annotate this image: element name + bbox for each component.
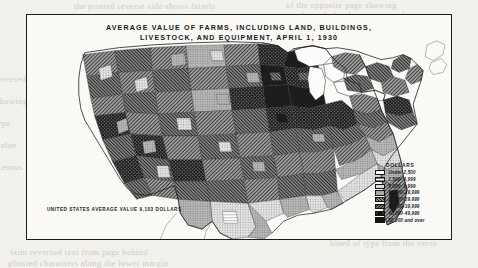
legend-row: Under 2,500 [375, 170, 449, 176]
legend-label: 30,000-39,999 [388, 204, 419, 209]
legend-label: 40,000-49,999 [388, 211, 419, 216]
showthrough-text-top-left: the printed reverse side shows faintly [74, 1, 216, 11]
legend-row: 50,000 and over [375, 217, 449, 223]
legend-row: 2,500- 4,999 [375, 176, 449, 182]
showthrough-text-left-2: showing [0, 96, 28, 106]
showthrough-text-left-1: reversed [0, 74, 26, 85]
showthrough-text-left-3: type [0, 118, 10, 128]
showthrough-text-top-right: of the opposite page showing [286, 0, 397, 10]
legend-rows: Under 2,5002,500- 4,9995,000- 9,99910,00… [375, 170, 449, 224]
map-plate: AVERAGE VALUE OF FARMS, INCLUDING LAND, … [26, 14, 452, 240]
legend-row: 40,000-49,999 [375, 210, 449, 216]
legend-swatch [375, 197, 385, 202]
legend-label: 10,000-19,999 [388, 190, 419, 195]
legend-swatch [375, 190, 385, 195]
legend-title: DOLLARS [386, 163, 449, 168]
legend-swatch [375, 184, 385, 189]
legend-swatch [375, 177, 385, 182]
legend-label: 5,000- 9,999 [388, 184, 415, 189]
legend-row: 10,000-19,999 [375, 190, 449, 196]
legend-swatch [375, 204, 385, 209]
united-states-average-note: UNITED STATES AVERAGE VALUE 9,103 DOLLAR… [47, 207, 182, 212]
legend-swatch [375, 170, 385, 175]
showthrough-text-bottom-left: faint reversed text from page behind [10, 247, 148, 257]
legend-label: 20,000-29,999 [388, 197, 419, 202]
legend-row: 20,000-29,999 [375, 197, 449, 203]
legend-row: 5,000- 9,999 [375, 183, 449, 189]
legend-label: 2,500- 4,999 [388, 177, 415, 182]
showthrough-text-left-5: census [0, 162, 23, 172]
legend-label: 50,000 and over [388, 218, 424, 223]
legend-swatch [375, 211, 385, 216]
legend-swatch [375, 217, 385, 222]
showthrough-text-bottom: ghosted characters along the lower margi… [8, 258, 168, 268]
map-legend: DOLLARS Under 2,5002,500- 4,9995,000- 9,… [375, 163, 449, 224]
showthrough-text-left-4: value [0, 140, 16, 150]
legend-row: 30,000-39,999 [375, 204, 449, 210]
legend-label: Under 2,500 [388, 170, 416, 175]
